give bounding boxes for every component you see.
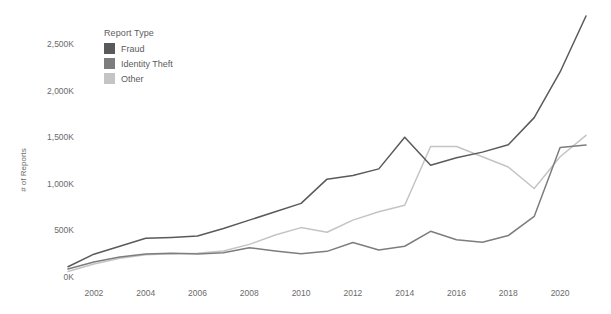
legend-item-label: Fraud	[121, 44, 145, 54]
x-tick-label: 2006	[188, 288, 207, 298]
legend-entries: FraudIdentity TheftOther	[104, 43, 173, 84]
x-tick-label: 2020	[551, 288, 570, 298]
y-tick-label: 1,000K	[47, 179, 74, 189]
x-tick-label: 2002	[84, 288, 103, 298]
x-tick-label: 2008	[240, 288, 259, 298]
line-chart: 0K500K1,000K1,500K2,000K2,500K 200220042…	[0, 0, 611, 314]
y-tick-label: 1,500K	[47, 132, 74, 142]
x-tick-label: 2018	[499, 288, 518, 298]
x-tick-label: 2010	[292, 288, 311, 298]
legend-item-fraud[interactable]: Fraud	[104, 43, 173, 54]
legend-item-label: Other	[121, 74, 144, 84]
legend-swatch-icon	[104, 58, 115, 69]
x-tick-label: 2016	[447, 288, 466, 298]
series-line-identity-theft	[68, 145, 586, 269]
legend: Report Type FraudIdentity TheftOther	[104, 28, 173, 88]
x-axis-tick-labels: 2002200420062008201020122014201620182020	[84, 288, 569, 298]
y-tick-label: 0K	[64, 272, 75, 282]
y-tick-label: 500K	[54, 225, 74, 235]
x-tick-label: 2014	[395, 288, 414, 298]
legend-swatch-icon	[104, 73, 115, 84]
y-axis-tick-labels: 0K500K1,000K1,500K2,000K2,500K	[47, 39, 74, 282]
y-tick-label: 2,000K	[47, 86, 74, 96]
legend-title: Report Type	[104, 28, 173, 38]
legend-item-label: Identity Theft	[121, 59, 173, 69]
x-tick-label: 2004	[136, 288, 155, 298]
y-tick-label: 2,500K	[47, 39, 74, 49]
legend-item-other[interactable]: Other	[104, 73, 173, 84]
legend-item-identity-theft[interactable]: Identity Theft	[104, 58, 173, 69]
y-axis-title: # of Reports	[19, 148, 28, 192]
legend-swatch-icon	[104, 43, 115, 54]
chart-plot-area: 0K500K1,000K1,500K2,000K2,500K 200220042…	[0, 0, 611, 314]
x-tick-label: 2012	[343, 288, 362, 298]
